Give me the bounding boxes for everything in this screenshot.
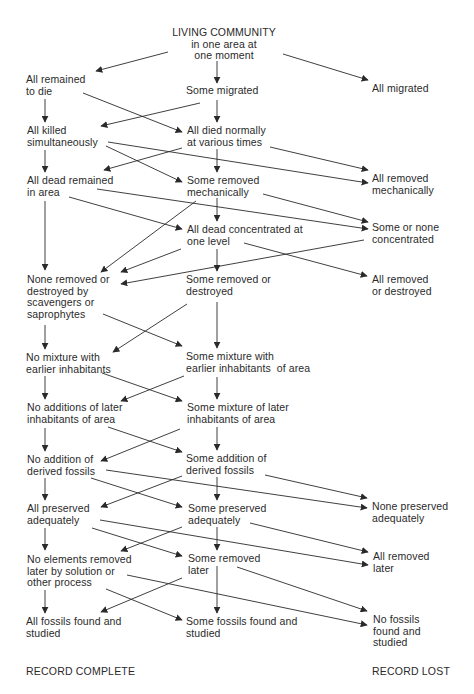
edge-some-mixture-later-to-no-addition-derived	[101, 429, 180, 461]
node-some-mixture-later: Some mixture of later inhabitants of are…	[187, 402, 289, 425]
node-root: LIVING COMMUNITY in one area at one mome…	[144, 27, 304, 62]
edge-all-dead-concentrated-to-none-removed-or-destroyed	[121, 249, 181, 272]
node-some-or-none-concentrated: Some or none concentrated	[372, 222, 439, 245]
node-some-addition-derived: Some addition of derived fossils	[186, 453, 266, 476]
node-all-removed-later: All removed later	[373, 551, 430, 574]
edge-some-preserved-to-all-removed-later	[250, 523, 368, 552]
node-some-mixture-earlier: Some mixture with earlier inhabitants of…	[186, 351, 310, 374]
node-all-remained-to-die: All remained to die	[26, 74, 86, 97]
node-some-fossils-found: Some fossils found and studied	[186, 616, 297, 639]
node-all-dead-remained: All dead remained in area	[27, 175, 113, 198]
node-all-killed-simultaneously: All killed simultaneously	[27, 125, 98, 148]
edge-some-removed-or-destroyed-to-no-mixture-earlier	[113, 304, 187, 352]
node-no-addition-derived: No addition of derived fossils	[27, 454, 95, 477]
edge-all-died-normally-to-all-removed-mechanically	[270, 147, 368, 170]
edge-some-migrated-to-all-killed-simultaneously	[101, 103, 200, 126]
edge-some-addition-derived-to-all-preserved	[101, 476, 182, 507]
edge-no-mixture-earlier-to-some-mixture-later	[102, 373, 182, 401]
edge-no-addition-derived-to-some-preserved	[91, 478, 182, 507]
record-lost-label: RECORD LOST	[372, 665, 450, 677]
edge-none-removed-or-destroyed-to-some-mixture-earlier	[103, 314, 182, 346]
node-none-removed-or-destroyed: None removed or destroyed by scavengers …	[27, 274, 110, 320]
node-all-preserved: All preserved adequately	[27, 503, 90, 526]
edge-all-dead-concentrated-to-all-removed-or-destroyed	[244, 243, 367, 276]
edges-layer	[0, 0, 474, 694]
node-some-removed-or-destroyed: Some removed or destroyed	[186, 274, 271, 297]
edge-some-removed-mechanically-to-some-or-none-concentrated	[263, 194, 368, 222]
node-all-fossils-found: All fossils found and studied	[26, 616, 122, 639]
node-some-migrated: Some migrated	[186, 85, 259, 97]
node-some-preserved: Some preserved adequately	[188, 503, 266, 526]
node-all-dead-concentrated: All dead concentrated at one level	[187, 224, 303, 247]
node-no-elements-removed: No elements removed later by solution or…	[27, 554, 132, 589]
node-no-additions-later: No additions of later inhabitants of are…	[27, 402, 123, 425]
node-no-mixture-earlier: No mixture with earlier inhabitants	[26, 352, 111, 375]
edge-no-additions-later-to-some-addition-derived	[108, 427, 182, 452]
node-some-removed-mechanically: Some removed mechanically	[187, 175, 259, 198]
record-complete-label: RECORD COMPLETE	[26, 665, 135, 677]
edge-some-addition-derived-to-none-preserved	[265, 475, 367, 498]
node-no-fossils-found: No fossils found and studied	[373, 614, 421, 649]
edge-some-preserved-to-no-elements-removed	[121, 527, 182, 551]
node-some-removed-later: Some removed later	[188, 553, 260, 576]
node-all-removed-mechanically: All removed mechanically	[372, 173, 434, 196]
node-all-removed-or-destroyed: All removed or destroyed	[372, 274, 432, 297]
node-all-migrated: All migrated	[372, 83, 429, 95]
edge-all-died-normally-to-all-dead-remained	[104, 148, 182, 170]
node-none-preserved: None preserved adequately	[372, 501, 448, 524]
node-all-died-normally: All died normally at various times	[187, 125, 266, 148]
edge-some-mixture-earlier-to-no-additions-later	[121, 376, 184, 401]
